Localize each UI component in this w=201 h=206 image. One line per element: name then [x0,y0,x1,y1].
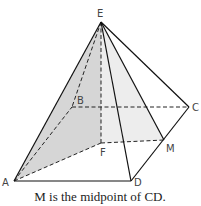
label-E: E [97,8,103,19]
label-F: F [100,147,106,158]
label-M: M [166,143,175,154]
pyramid-diagram: E B C F M A D M is the midpoint of CD. [0,0,201,206]
label-C: C [192,102,199,113]
label-D: D [134,177,142,188]
label-B: B [77,95,84,106]
label-A: A [2,177,9,188]
caption: M is the midpoint of CD. [34,189,165,204]
